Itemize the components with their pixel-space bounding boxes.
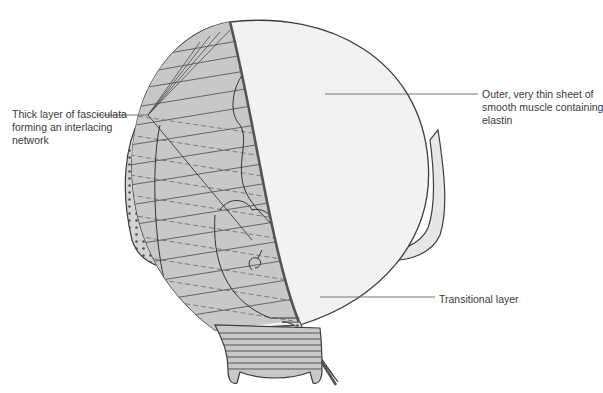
- label-line: Outer, very thin sheet of: [482, 88, 603, 101]
- neck-region: [210, 325, 330, 383]
- label-line: forming an interlacing: [12, 121, 127, 134]
- label-outer-thin-sheet: Outer, very thin sheet of smooth muscle …: [482, 88, 603, 127]
- label-line: network: [12, 134, 127, 147]
- label-line: smooth muscle containing: [482, 101, 603, 114]
- label-line: Transitional layer: [439, 293, 519, 306]
- label-line: Thick layer of fasciculata: [12, 108, 127, 121]
- label-fasciculata-layer: Thick layer of fasciculata forming an in…: [12, 108, 127, 147]
- label-line: elastin: [482, 114, 603, 127]
- label-transitional-layer: Transitional layer: [439, 293, 519, 306]
